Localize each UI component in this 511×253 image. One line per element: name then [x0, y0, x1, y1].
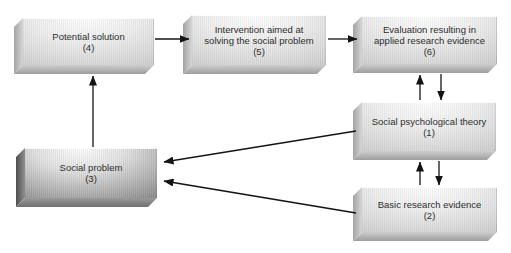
box-label: applied research evidence [374, 35, 485, 46]
box-label: solving the social problem [204, 35, 313, 46]
box-number: (5) [253, 46, 265, 57]
box-social-problem: Social problem (3) [25, 148, 157, 198]
box-number: (3) [85, 173, 97, 184]
box-label: Evaluation resulting in [383, 24, 476, 35]
flow-diagram: Potential solution (4) Intervention aime… [0, 0, 511, 253]
arrow-theory-to-problem [164, 131, 356, 162]
box-potential-solution: Potential solution (4) [23, 18, 154, 65]
box-label: Basic research evidence [378, 199, 482, 210]
box-basic-research-evidence: Basic research evidence (2) [362, 187, 497, 232]
box-label: Intervention aimed at [215, 24, 304, 35]
box-number: (1) [423, 127, 435, 138]
box-number: (4) [83, 42, 95, 53]
box-evaluation: Evaluation resulting in applied research… [362, 16, 497, 64]
box-label: Potential solution [52, 31, 124, 42]
box-number: (6) [424, 46, 436, 57]
box-label: Social psychological theory [372, 116, 487, 127]
box-social-psychological-theory: Social psychological theory (1) [362, 102, 496, 151]
box-number: (2) [424, 210, 436, 221]
box-intervention: Intervention aimed at solving the social… [192, 15, 326, 65]
box-label: Social problem [60, 162, 123, 173]
arrow-research-to-problem [164, 181, 356, 213]
